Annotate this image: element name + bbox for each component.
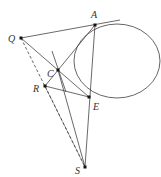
point-c (57, 69, 60, 72)
label-a: A (90, 9, 98, 20)
label-e: E (92, 101, 99, 112)
line-q-a-extended (21, 20, 120, 38)
point-s (84, 166, 87, 169)
label-s: S (75, 165, 80, 176)
line-c-s (58, 70, 85, 167)
dashed-q-s (21, 38, 85, 167)
point-a (94, 24, 97, 27)
label-c: C (47, 68, 54, 79)
label-r: R (32, 83, 39, 94)
geometry-diagram: A Q C R E S (0, 0, 161, 177)
point-e (88, 96, 91, 99)
point-r (44, 85, 47, 88)
point-q (20, 37, 23, 40)
label-q: Q (8, 33, 16, 44)
